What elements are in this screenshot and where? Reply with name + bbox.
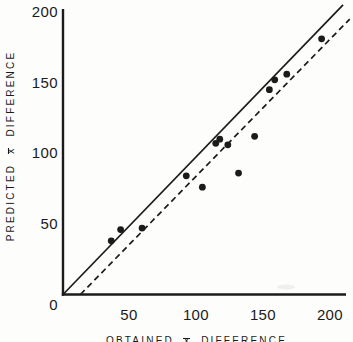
scan-smudge — [277, 284, 295, 289]
y-tick-label: 50 — [41, 215, 59, 232]
figure-canvas: 50100150200501001502000 PREDICTED x DIFF… — [0, 0, 353, 342]
identity-line — [63, 5, 343, 295]
x-tick-label: 50 — [120, 306, 138, 323]
data-point — [108, 237, 115, 244]
y-tick-label: 150 — [32, 74, 58, 91]
data-point — [235, 170, 242, 177]
data-point — [183, 172, 190, 179]
data-point — [251, 133, 258, 140]
data-point — [318, 35, 325, 42]
data-point — [283, 71, 290, 78]
x-axis-title-word-1: OBTAINED — [106, 336, 174, 342]
x-tick-label: 100 — [183, 306, 209, 323]
data-point — [224, 141, 231, 148]
y-axis-title: PREDICTED x DIFFERENCE — [6, 41, 16, 251]
regression-line — [80, 19, 349, 294]
data-point — [271, 76, 278, 83]
x-tick-label: 150 — [250, 306, 276, 323]
data-point — [117, 226, 124, 233]
y-tick-label: 200 — [32, 3, 58, 20]
scatter-plot: 50100150200501001502000 — [0, 0, 353, 342]
data-point — [266, 86, 273, 93]
x-bar-mean-symbol: x — [184, 336, 191, 342]
origin-tick-label: 0 — [49, 296, 58, 313]
x-axis-title: OBTAINED x DIFFERENCE — [40, 336, 353, 342]
y-axis-title-word-1: PREDICTED — [6, 164, 16, 242]
data-point — [199, 184, 206, 191]
x-axis-title-word-2: DIFFERENCE — [201, 336, 287, 342]
data-point — [139, 225, 146, 232]
y-axis-title-word-2: DIFFERENCE — [6, 51, 16, 137]
x-bar-mean-symbol: x — [6, 147, 16, 154]
y-tick-label: 100 — [32, 144, 58, 161]
data-point — [216, 136, 223, 143]
x-tick-label: 200 — [317, 306, 343, 323]
